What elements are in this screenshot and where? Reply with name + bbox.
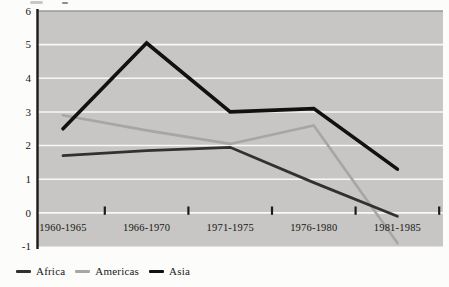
y-axis-label: 0 <box>26 207 32 219</box>
legend-item-asia: Asia <box>149 265 190 277</box>
legend-item-africa: Africa <box>16 265 65 277</box>
y-axis-label: 1 <box>26 173 32 185</box>
legend-item-americas: Americas <box>75 265 139 277</box>
legend-label: Africa <box>36 265 65 277</box>
x-axis-label: 1960-1965 <box>39 222 86 233</box>
y-axis-label: 3 <box>26 106 32 118</box>
y-axis-label: 6 <box>26 5 32 17</box>
legend-label: Americas <box>95 265 139 277</box>
y-axis-label: 5 <box>26 38 32 50</box>
x-axis-label: 1981-1985 <box>374 222 421 233</box>
y-axis-label: 2 <box>26 139 32 151</box>
legend-swatch-africa <box>16 270 31 273</box>
line-chart-figure: 6543210-11960-19651966-19701971-19751976… <box>0 0 449 287</box>
x-axis-label: 1971-1975 <box>207 222 254 233</box>
legend-swatch-americas <box>75 270 90 273</box>
chart-plot-area: 6543210-11960-19651966-19701971-19751976… <box>0 0 449 258</box>
y-axis-label: 4 <box>26 72 32 84</box>
legend-swatch-asia <box>149 270 164 273</box>
chart-legend: AfricaAmericasAsia <box>16 263 190 279</box>
x-axis-label: 1976-1980 <box>290 222 337 233</box>
legend-label: Asia <box>169 265 190 277</box>
x-axis-label: 1966-1970 <box>123 222 170 233</box>
y-axis-label: -1 <box>22 240 31 252</box>
